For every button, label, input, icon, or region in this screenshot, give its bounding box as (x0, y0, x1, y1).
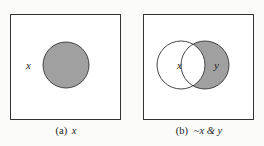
venn-diagram-figure: x (a) x x y (b) ~x & y (0, 0, 264, 146)
set-y-label: y (213, 59, 219, 71)
panel-a: x (a) x (11, 15, 121, 138)
caption-a: (a) x (56, 125, 77, 137)
caption-b: (b) ~x & y (176, 125, 223, 137)
set-x-circle-shaded (43, 42, 89, 88)
universe-box-b (144, 15, 254, 120)
universe-label-x: x (25, 59, 31, 71)
panel-b: x y (b) ~x & y (144, 15, 254, 138)
set-x-label: x (176, 59, 182, 71)
